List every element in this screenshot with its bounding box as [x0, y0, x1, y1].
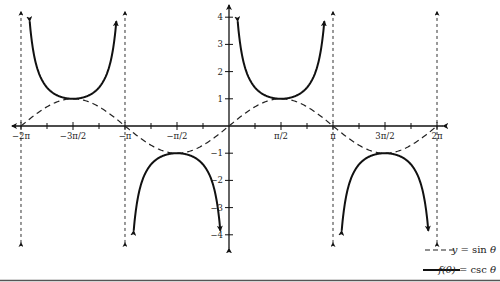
- legend: y = sin θ f(θ) = csc θ: [423, 244, 496, 275]
- x-tick-label: 3π/2: [375, 131, 394, 141]
- legend-label-sin: y = sin θ: [451, 244, 496, 255]
- x-tick-label: −π: [119, 131, 132, 141]
- x-tick-label: 2π: [432, 131, 443, 141]
- cosecant-branch: [134, 153, 221, 231]
- cosecant-branch: [238, 21, 325, 99]
- axes: [12, 5, 443, 248]
- x-tick-label: −3π/2: [60, 131, 86, 141]
- legend-label-csc: f(θ) = csc θ: [437, 264, 496, 275]
- x-tick-label: π: [330, 131, 336, 141]
- x-tick-label: −2π: [12, 131, 31, 141]
- chart: −2π−3π/2−π−π/2π/2π3π/22π 4321−1−2−3−4 y …: [0, 0, 500, 282]
- y-tick-label: 3: [218, 39, 223, 49]
- y-tick-label: −1: [210, 148, 223, 158]
- cosecant-branch: [30, 21, 117, 99]
- x-tick-label: −π/2: [167, 131, 188, 141]
- x-tick-label: π/2: [274, 131, 288, 141]
- cosecant-branch: [342, 153, 429, 231]
- y-tick-label: 1: [218, 94, 223, 104]
- y-tick-label: 4: [218, 12, 223, 22]
- y-tick-label: −4: [210, 230, 223, 240]
- y-tick-label: 2: [218, 67, 223, 77]
- x-ticks: −2π−3π/2−π−π/2π/2π3π/22π: [12, 122, 443, 141]
